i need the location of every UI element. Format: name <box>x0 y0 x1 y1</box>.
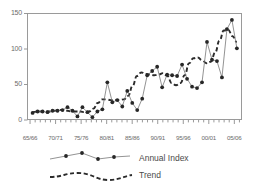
legend-swatches <box>0 150 258 188</box>
legend-label-annual-index: Annual Index <box>139 153 189 163</box>
chart-figure: 050100150 65/6670/7175/7680/8185/8690/91… <box>0 0 258 188</box>
series-plot <box>0 0 258 150</box>
legend-label-trend: Trend <box>139 170 161 180</box>
chart-legend: Annual Index Trend <box>0 150 258 188</box>
